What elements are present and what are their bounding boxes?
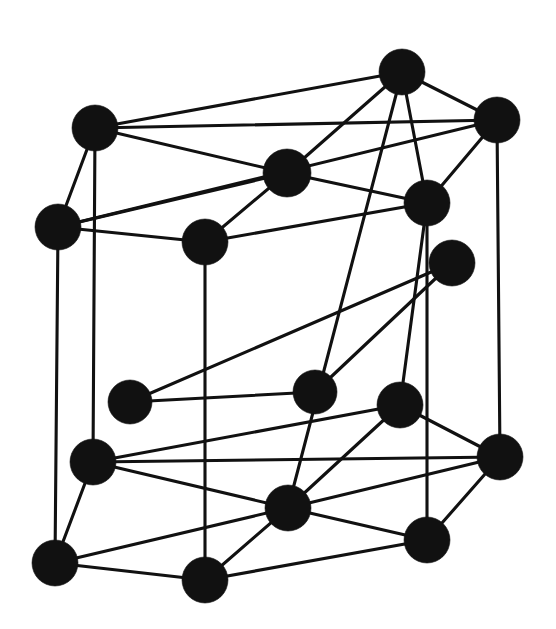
atom-mid-right — [429, 240, 475, 286]
atom-bottom-right-rear — [477, 434, 523, 480]
atom-top-front-left — [35, 204, 81, 250]
atom-top-front-center — [182, 219, 228, 265]
atom-top-back-left — [72, 105, 118, 151]
atom-top-right-rear — [474, 97, 520, 143]
atom-bottom-right-front — [404, 517, 450, 563]
atom-top-right-front — [404, 180, 450, 226]
bond-top-back-left--bottom-back-left — [93, 128, 95, 462]
crystal-structure-figure — [0, 0, 556, 629]
hcp-lattice-diagram — [0, 0, 556, 629]
atom-top-center — [263, 149, 311, 197]
atom-mid-left — [108, 380, 152, 424]
atom-mid-right-front — [377, 382, 423, 428]
atom-bottom-center — [265, 485, 311, 531]
atom-bottom-front-left — [32, 540, 78, 586]
atom-bottom-front-center — [182, 557, 228, 603]
atom-mid-center — [293, 370, 337, 414]
atom-bottom-back-left — [70, 439, 116, 485]
atom-top-back-right — [379, 49, 425, 95]
